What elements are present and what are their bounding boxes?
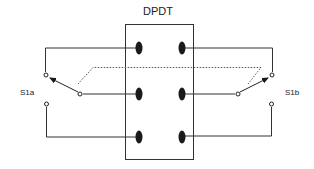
- contact-left-bottom: [136, 131, 143, 144]
- contact-right-top: [179, 42, 186, 55]
- wire-right-top: [182, 48, 273, 72]
- switch-terminals: [44, 73, 274, 106]
- switch-label-s1a: S1a: [20, 88, 34, 97]
- terminal-s1b-common: [236, 92, 240, 96]
- terminal-s1b-top: [270, 73, 274, 77]
- right-wiring: [182, 48, 273, 136]
- circuit-canvas: [0, 0, 314, 169]
- terminal-s1b-bottom: [270, 102, 274, 106]
- contact-right-middle: [179, 88, 186, 101]
- switch-label-s1b: S1b: [285, 88, 299, 97]
- contact-left-middle: [136, 88, 143, 101]
- diagram-title: DPDT: [143, 5, 173, 17]
- terminal-s1a-bottom: [45, 102, 49, 106]
- switch-arm-s1b: [240, 78, 268, 92]
- wire-right-bottom: [182, 107, 272, 136]
- terminal-s1a-common: [78, 92, 82, 96]
- terminal-s1a-top: [44, 73, 48, 77]
- left-wiring: [46, 48, 140, 137]
- switch-arm-s1a: [50, 78, 78, 92]
- contact-right-bottom: [179, 131, 186, 144]
- contact-left-top: [136, 42, 143, 55]
- mechanical-link-dotted: [78, 68, 261, 85]
- switch-contacts: [136, 42, 186, 144]
